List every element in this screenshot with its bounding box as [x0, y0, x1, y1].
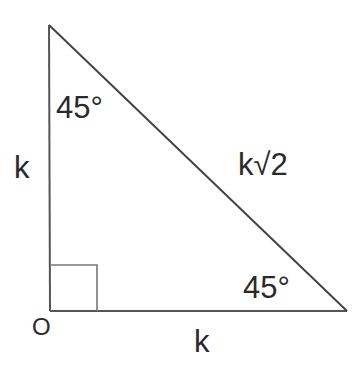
- right-angle-label: 45°: [243, 270, 290, 305]
- diagram-canvas: 45° 45° k√2 k k O: [0, 0, 363, 368]
- top-angle-label: 45°: [56, 90, 103, 125]
- right-angle-marker: [50, 265, 97, 311]
- triangle-figure: 45° 45° k√2 k k O: [0, 0, 363, 368]
- hypotenuse-label: k√2: [238, 147, 288, 182]
- hypotenuse-line: [49, 25, 347, 311]
- bottom-side-label: k: [194, 324, 210, 359]
- left-side-line: [49, 25, 50, 311]
- origin-label: O: [32, 313, 51, 340]
- left-side-label: k: [14, 150, 30, 185]
